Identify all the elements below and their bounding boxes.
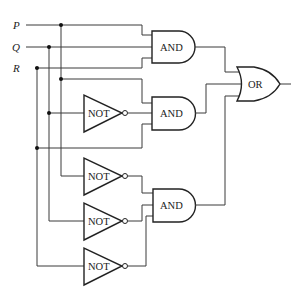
and-output-wires bbox=[195, 47, 242, 205]
not-gate-2-label: NOT bbox=[88, 171, 110, 182]
logic-circuit-diagram: P Q R NOT bbox=[0, 0, 301, 301]
and-gate-2: AND bbox=[152, 97, 196, 130]
not-gate-4-label: NOT bbox=[88, 261, 110, 272]
not-gate-4: NOT bbox=[84, 248, 128, 285]
input-label-p: P bbox=[12, 19, 20, 31]
not-gate-2: NOT bbox=[84, 158, 128, 195]
and-gate-3-label: AND bbox=[160, 200, 183, 211]
input-label-q: Q bbox=[12, 41, 20, 53]
not-gate-1-label: NOT bbox=[88, 108, 110, 119]
or-gate-label: OR bbox=[248, 79, 263, 90]
and-gate-2-label: AND bbox=[160, 108, 183, 119]
input-label-r: R bbox=[12, 62, 20, 74]
and-gate-1-label: AND bbox=[160, 42, 183, 53]
and-gate-1: AND bbox=[152, 31, 195, 63]
not-output-wires bbox=[128, 113, 153, 266]
input-wires bbox=[26, 25, 152, 68]
and-gate-3: AND bbox=[153, 189, 196, 222]
not-gate-3-label: NOT bbox=[88, 216, 110, 227]
not-gate-1: NOT bbox=[84, 95, 128, 132]
or-gate: OR bbox=[237, 67, 280, 101]
not-gate-3: NOT bbox=[84, 203, 128, 240]
